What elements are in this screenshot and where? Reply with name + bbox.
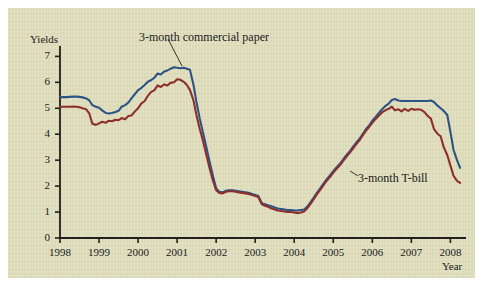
x-tick-label-2006: 2006: [352, 247, 392, 258]
y-tick-label-0: 0: [26, 232, 50, 243]
chart-series: [60, 67, 460, 213]
chart-axes: [55, 46, 466, 243]
yields-line-chart: [8, 8, 475, 278]
y-axis-title: Yields: [30, 34, 58, 45]
x-tick-label-2007: 2007: [391, 247, 431, 258]
y-tick-label-2: 2: [26, 180, 50, 191]
series-line-3-month-commercial-paper: [60, 67, 460, 210]
series-label-tbill: 3-month T-bill: [358, 172, 428, 184]
chart-panel: Yields Year 3-month commercial paper 3-m…: [8, 8, 475, 278]
leader-line-tbill: [350, 171, 358, 176]
y-tick-label-5: 5: [26, 102, 50, 113]
y-tick-label-7: 7: [26, 50, 50, 61]
chart-screenshot: Yields Year 3-month commercial paper 3-m…: [0, 0, 483, 290]
y-tick-label-3: 3: [26, 154, 50, 165]
x-tick-label-2000: 2000: [118, 247, 158, 258]
y-tick-label-4: 4: [26, 128, 50, 139]
x-tick-label-1998: 1998: [40, 247, 80, 258]
y-tick-label-6: 6: [26, 76, 50, 87]
x-axis-title: Year: [442, 261, 462, 272]
x-tick-label-2008: 2008: [430, 247, 470, 258]
x-tick-label-2002: 2002: [196, 247, 236, 258]
x-tick-label-1999: 1999: [79, 247, 119, 258]
series-label-commercial-paper: 3-month commercial paper: [139, 31, 269, 43]
y-tick-label-1: 1: [26, 206, 50, 217]
x-tick-label-2003: 2003: [235, 247, 275, 258]
x-tick-label-2004: 2004: [274, 247, 314, 258]
series-line-3-month-t-bill: [60, 79, 460, 213]
x-tick-label-2001: 2001: [157, 247, 197, 258]
x-tick-label-2005: 2005: [313, 247, 353, 258]
